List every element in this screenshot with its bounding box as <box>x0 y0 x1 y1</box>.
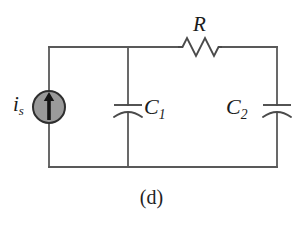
current-source-label: is <box>13 94 24 115</box>
circuit-figure: is R C1 C2 (d) <box>0 0 303 228</box>
capacitor-2-label-base: C <box>226 94 241 119</box>
capacitor-2-label: C2 <box>226 96 248 118</box>
resistor-label-base: R <box>193 12 206 36</box>
resistor-label: R <box>193 14 206 35</box>
resistor-zigzag-icon <box>178 38 222 56</box>
capacitor-1-label-base: C <box>144 94 159 119</box>
current-source-label-base: i <box>13 92 19 116</box>
capacitor-1-label: C1 <box>144 96 166 118</box>
capacitor-2-label-subscript: 2 <box>241 107 248 122</box>
figure-caption: (d) <box>0 186 303 209</box>
current-source-label-subscript: s <box>19 103 24 118</box>
current-source-symbol <box>33 91 65 123</box>
capacitor-1-label-subscript: 1 <box>159 107 166 122</box>
resistor-symbol <box>178 38 222 56</box>
